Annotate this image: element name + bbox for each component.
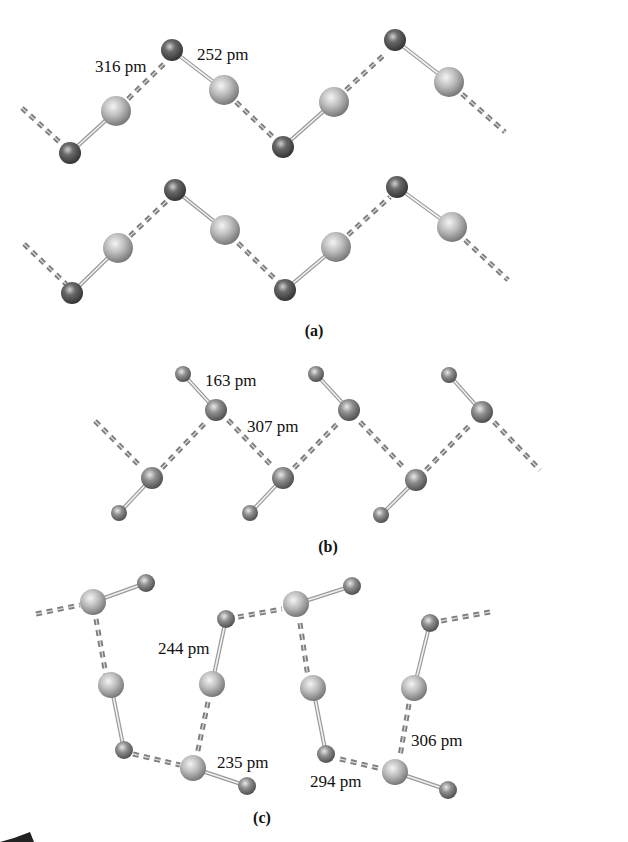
panel-caption-a: (a): [305, 322, 324, 340]
distance-label: 163 pm: [205, 371, 256, 390]
panel-caption-c: (c): [253, 809, 271, 827]
crystal-structure-diagram: 316 pm 252 pm (a): [0, 0, 628, 842]
atom-large: [321, 232, 351, 262]
distance-label: 294 pm: [310, 772, 361, 791]
atom-large: [205, 399, 227, 421]
atom-small: [343, 577, 361, 595]
atom-large: [434, 67, 464, 97]
atom-large: [405, 469, 427, 491]
atom-small: [217, 610, 235, 628]
atom-small: [61, 282, 83, 304]
atom-small: [274, 279, 296, 301]
atom-small: [115, 741, 133, 759]
atom-large: [199, 671, 225, 697]
corner-artifact: [0, 832, 34, 842]
distance-label: 252 pm: [197, 45, 248, 64]
contacts-b: [95, 420, 540, 470]
atom-large: [300, 675, 326, 701]
atom-small: [59, 142, 81, 164]
atom-large: [382, 759, 408, 785]
distance-label: 316 pm: [95, 57, 146, 76]
panel-caption-b: (b): [318, 538, 338, 556]
atom-large: [319, 87, 349, 117]
atom-large: [437, 212, 467, 242]
atom-large: [180, 755, 206, 781]
distance-label: 307 pm: [247, 417, 298, 436]
atom-small: [242, 505, 258, 521]
panel-b: 163 pm 307 pm (b): [95, 366, 540, 556]
panel-c: 244 pm 235 pm 294 pm 306 pm (c): [36, 574, 490, 827]
distance-label: 244 pm: [158, 639, 209, 658]
atom-small: [308, 366, 324, 382]
atom-small: [384, 29, 406, 51]
atom-small: [317, 745, 335, 763]
atom-small: [175, 366, 191, 382]
atom-small: [421, 614, 439, 632]
distance-label: 235 pm: [217, 753, 268, 772]
atom-large: [98, 672, 124, 698]
atom-large: [283, 591, 309, 617]
atoms-c: [80, 574, 457, 799]
atom-large: [209, 75, 239, 105]
atom-large: [338, 399, 360, 421]
atom-small: [272, 136, 294, 158]
atom-large: [103, 233, 133, 263]
atom-small: [439, 781, 457, 799]
atom-small: [111, 505, 127, 521]
atom-large: [141, 467, 163, 489]
atom-large: [272, 467, 294, 489]
atom-large: [401, 675, 427, 701]
atom-small: [386, 176, 408, 198]
atoms-b: [111, 366, 493, 523]
atom-small: [373, 507, 389, 523]
atom-small: [161, 39, 183, 61]
atom-large: [80, 589, 106, 615]
atom-small: [164, 179, 186, 201]
atom-large: [101, 96, 131, 126]
atom-large: [471, 401, 493, 423]
atom-large: [210, 215, 240, 245]
atom-small: [137, 574, 155, 592]
atoms-row1: [59, 29, 464, 164]
bonds-b: [119, 374, 482, 515]
panel-a: 316 pm 252 pm (a): [22, 29, 508, 340]
atom-small: [238, 777, 256, 795]
distance-label: 306 pm: [411, 731, 462, 750]
atom-small: [441, 367, 457, 383]
